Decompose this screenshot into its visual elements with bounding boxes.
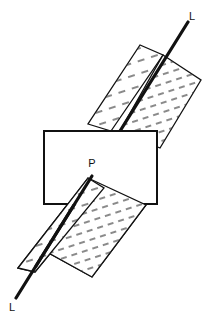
label-plane-p: P [88,157,95,169]
label-line-top: L [189,10,195,22]
geometric-diagram: L L P [0,0,208,324]
figure-root: L L P [0,0,208,324]
label-line-bottom: L [9,301,15,313]
